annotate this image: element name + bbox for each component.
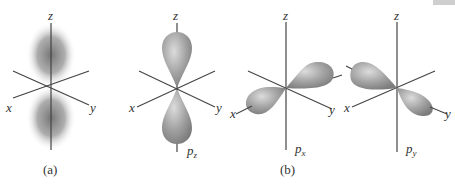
y-axis-label: y <box>443 106 451 121</box>
orbital-label-pz: pz <box>186 143 198 160</box>
py-front-lobe <box>397 88 433 116</box>
y-axis-label: y <box>327 102 335 117</box>
orbital-label-py: py <box>405 141 417 158</box>
py-back-lobe <box>350 62 397 90</box>
p-orbitals-figure: z x y (a) z x y pz z x y px (b) z <box>0 0 455 184</box>
x-axis-label: x <box>343 100 350 115</box>
x-axis-label: x <box>5 100 12 115</box>
pz-lower-lobe <box>162 88 192 144</box>
y-axis-line-start <box>346 66 352 69</box>
orbital-px: z x y px (b) <box>229 8 342 177</box>
panel-a-density-cloud: z x y (a) <box>5 8 96 177</box>
z-axis-label: z <box>282 8 288 23</box>
z-axis-label: z <box>393 8 399 23</box>
orbital-py: z x y py <box>343 8 451 158</box>
pz-upper-lobe <box>162 32 192 88</box>
px-front-lobe <box>246 87 286 114</box>
x-axis-line-end <box>333 75 342 78</box>
orbital-label-px: px <box>294 141 306 158</box>
z-axis-label: z <box>47 8 53 23</box>
panel-a-caption: (a) <box>43 162 57 177</box>
y-axis-label: y <box>88 100 96 115</box>
px-back-lobe <box>286 62 334 89</box>
x-axis-label: x <box>229 106 236 121</box>
x-axis-label: x <box>128 100 135 115</box>
panel-b-caption: (b) <box>280 162 295 177</box>
z-axis-label: z <box>172 8 178 23</box>
y-axis-label: y <box>214 100 222 115</box>
corner-mark <box>433 0 455 5</box>
orbital-pz: z x y pz <box>128 8 222 160</box>
